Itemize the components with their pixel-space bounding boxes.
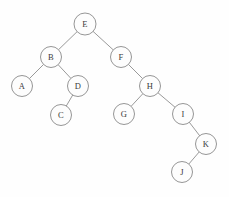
tree-node-label-i: I	[181, 109, 184, 119]
tree-node-a[interactable]: A	[12, 76, 33, 97]
tree-node-label-c: C	[58, 110, 64, 120]
tree-node-label-j: J	[180, 167, 184, 177]
tree-node-label-k: K	[203, 139, 210, 149]
tree-edge-h-i	[158, 93, 175, 107]
tree-node-f[interactable]: F	[111, 47, 132, 68]
tree-node-i[interactable]: I	[173, 104, 194, 125]
tree-node-label-f: F	[119, 52, 124, 62]
tree-canvas: EBFADHCGIKJ	[0, 0, 229, 197]
tree-edge-b-a	[29, 64, 43, 78]
tree-node-g[interactable]: G	[114, 104, 135, 125]
tree-edge-f-h	[128, 64, 142, 78]
tree-edge-h-g	[131, 94, 143, 107]
tree-edge-e-b	[59, 32, 78, 50]
tree-node-label-d: D	[75, 81, 81, 91]
tree-node-b[interactable]: B	[41, 47, 62, 68]
tree-node-e[interactable]: E	[74, 13, 96, 35]
tree-edge-k-j	[189, 152, 199, 164]
tree-node-label-a: A	[19, 81, 26, 91]
tree-node-h[interactable]: H	[140, 76, 161, 97]
tree-node-label-e: E	[82, 19, 87, 29]
tree-edge-i-k	[189, 122, 199, 135]
tree-edge-e-f	[93, 31, 113, 49]
tree-node-label-b: B	[48, 52, 54, 62]
node-layer: EBFADHCGIKJ	[12, 13, 217, 183]
tree-node-d[interactable]: D	[68, 76, 89, 97]
tree-node-label-g: G	[121, 109, 127, 119]
binary-tree-figure: EBFADHCGIKJ	[0, 0, 229, 197]
tree-edge-b-d	[58, 65, 71, 79]
tree-node-label-h: H	[147, 81, 153, 91]
tree-node-c[interactable]: C	[51, 105, 72, 126]
tree-node-k[interactable]: K	[196, 134, 217, 155]
tree-node-j[interactable]: J	[172, 162, 193, 183]
tree-edge-d-c	[66, 95, 72, 106]
